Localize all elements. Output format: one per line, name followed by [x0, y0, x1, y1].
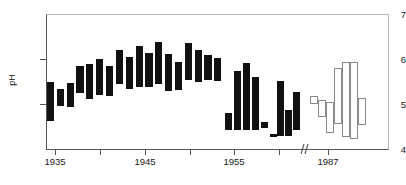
bar-historical-ph-range-6: [106, 66, 113, 95]
bar-historical-ph-range-18: [225, 113, 232, 130]
bar-historical-ph-range-17: [214, 58, 221, 81]
bar-recent-ph-range-6: [358, 98, 366, 125]
bar-historical-ph-range-23: [270, 134, 277, 137]
bar-historical-ph-range-5: [96, 59, 103, 94]
bar-historical-ph-range-15: [195, 50, 202, 82]
bar-historical-ph-range-3: [76, 66, 83, 93]
bar-recent-ph-range-4: [342, 62, 350, 138]
bar-historical-ph-range-4: [86, 64, 93, 99]
bar-historical-ph-range-25: [285, 110, 292, 136]
bar-recent-ph-range-2: [326, 102, 334, 132]
bar-recent-ph-range-1: [318, 100, 326, 117]
bar-historical-ph-range-12: [165, 54, 172, 91]
bar-historical-ph-range-24: [277, 81, 284, 136]
bar-historical-ph-range-0: [47, 82, 54, 121]
bar-historical-ph-range-20: [243, 63, 250, 130]
bar-historical-ph-range-14: [185, 43, 192, 79]
bar-historical-ph-range-22: [261, 122, 268, 128]
bar-recent-ph-range-5: [350, 62, 358, 139]
bars-container: [0, 0, 406, 185]
bar-historical-ph-range-16: [204, 55, 211, 80]
bar-historical-ph-range-13: [175, 62, 182, 91]
bar-recent-ph-range-0: [310, 96, 318, 104]
bar-historical-ph-range-9: [136, 46, 143, 87]
chart-root: pH 7 6 5 4 1935 1945 1955 1987: [0, 0, 406, 185]
bar-historical-ph-range-19: [234, 71, 241, 130]
bar-historical-ph-range-7: [116, 50, 123, 84]
bar-historical-ph-range-10: [145, 53, 152, 88]
bar-historical-ph-range-26: [293, 92, 300, 130]
bar-historical-ph-range-21: [252, 77, 259, 130]
bar-historical-ph-range-11: [155, 42, 162, 84]
bar-historical-ph-range-8: [126, 57, 133, 89]
bar-recent-ph-range-3: [334, 68, 342, 123]
bar-historical-ph-range-1: [57, 89, 64, 106]
bar-historical-ph-range-2: [67, 83, 74, 107]
